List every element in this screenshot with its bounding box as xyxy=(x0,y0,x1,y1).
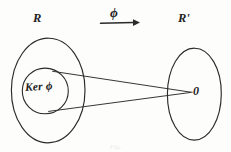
map-phi-label: ϕ xyxy=(110,6,118,20)
zero-element-label: 0 xyxy=(193,85,199,97)
kernel-label: Ker ϕ xyxy=(25,80,53,93)
map-arrow-head xyxy=(133,19,140,26)
codomain-set-label: R' xyxy=(178,12,190,25)
domain-set-label: R xyxy=(33,12,41,25)
figure-caption: Fig. xyxy=(0,143,231,151)
map-arrow-shaft xyxy=(101,23,134,24)
figure-canvas: R R' ϕ Ker ϕ 0 Fig. xyxy=(0,0,231,152)
